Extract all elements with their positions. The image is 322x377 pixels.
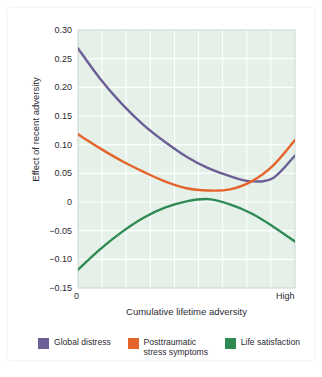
legend-swatch-icon [128, 338, 139, 349]
legend-label: Posttraumatic stress symptoms [144, 337, 208, 357]
y-axis-tick-0: 0.30 [30, 25, 72, 35]
legend-item[interactable]: Life satisfaction [225, 337, 300, 349]
x-axis-tick-0: 0 [74, 291, 79, 301]
legend: Global distressPosttraumatic stress symp… [38, 337, 300, 357]
x-axis-tick-high: High [276, 291, 295, 301]
plot-background [78, 30, 295, 288]
chart: 0.300.250.200.150.100.050−0.05−0.10−0.15… [0, 0, 322, 377]
y-axis-tick-7: −0.05 [30, 226, 72, 236]
legend-label: Global distress [54, 337, 111, 347]
y-axis-tick-9: −0.15 [30, 283, 72, 293]
legend-item[interactable]: Posttraumatic stress symptoms [128, 337, 208, 357]
x-axis-title: Cumulative lifetime adversity [78, 306, 295, 317]
legend-swatch-icon [38, 338, 49, 349]
legend-swatch-icon [225, 338, 236, 349]
y-axis-title: Effect of recent adversity [30, 45, 41, 215]
figure-container: 0.300.250.200.150.100.050−0.05−0.10−0.15… [0, 0, 322, 377]
legend-item[interactable]: Global distress [38, 337, 111, 349]
legend-label: Life satisfaction [241, 337, 300, 347]
y-axis-tick-8: −0.10 [30, 254, 72, 264]
